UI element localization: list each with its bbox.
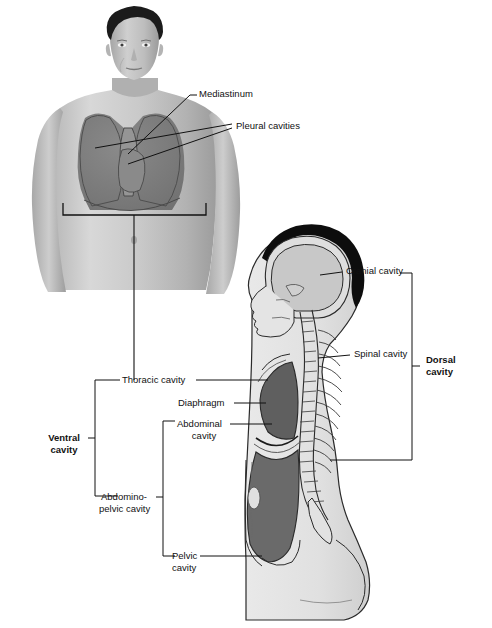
label-abdominal-cavity-line1: Abdominal [177,418,222,429]
thoracic-cavity-shading [78,113,185,210]
left-pupil [120,43,123,46]
bracket-abdominopelvic [163,421,175,556]
label-abdominopelvic-line1: Abdomino- [101,491,147,502]
right-ear [158,44,163,56]
label-diaphragm: Diaphragm [178,397,224,408]
left-ear [106,44,111,56]
label-cranial-cavity: Cranial cavity [346,265,403,276]
label-abdominal-cavity-line2: cavity [177,430,231,441]
label-pelvic-cavity-line1: Pelvic [172,550,197,561]
sagittal-section-illustration [245,224,370,620]
label-ventral-cavity-line1: Ventral [38,432,90,443]
label-pelvic-cavity-line2: cavity [172,562,196,573]
label-abdominopelvic-line2: pelvic cavity [99,503,150,514]
label-ventral-cavity-line2: cavity [38,444,90,455]
bracket-ventral [95,380,118,496]
label-spinal-cavity: Spinal cavity [354,348,407,359]
label-dorsal-cavity-line2: cavity [426,366,453,377]
anterior-torso-illustration [32,6,240,380]
label-dorsal-cavity-line1: Dorsal [426,354,456,365]
bracket-dorsal [400,273,412,460]
abdominal-muscle-detail [248,487,260,509]
right-pupil [144,43,147,46]
label-mediastinum: Mediastinum [199,88,253,99]
heart-outline [118,149,145,192]
label-thoracic-cavity: Thoracic cavity [122,374,185,385]
label-pleural-cavities: Pleural cavities [236,120,300,131]
